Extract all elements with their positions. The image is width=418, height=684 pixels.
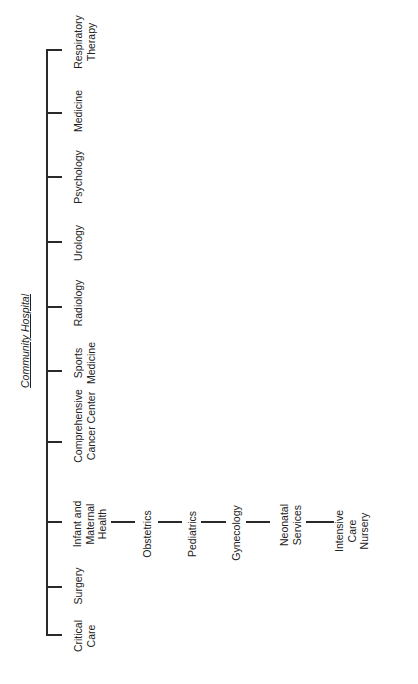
subunit-label-line: Neonatal — [278, 504, 291, 546]
dept-urology: Urology — [72, 225, 85, 261]
dept-label-line: Therapy — [84, 15, 97, 69]
subunit-label-line: Obstetrics — [141, 510, 154, 557]
subunit-gynecology: Gynecology — [230, 505, 243, 560]
dept-label-line: Critical — [72, 620, 85, 652]
dept-infant-maternal-health: Infant and Maternal Health — [71, 501, 109, 548]
dept-label-line: Medicine — [72, 90, 85, 132]
dept-label-line: Sports — [72, 342, 85, 384]
subunit-obstetrics: Obstetrics — [141, 510, 154, 557]
dept-sports-medicine: Sports Medicine — [72, 342, 97, 384]
subunit-label-line: Pediatrics — [186, 511, 199, 557]
dept-label-line: Medicine — [84, 342, 97, 384]
tick-radiology — [46, 306, 62, 308]
dept-label-line: Radiology — [72, 280, 85, 327]
dept-label-line: Infant and — [71, 501, 84, 548]
dept-label-line: Urology — [72, 225, 85, 261]
subunit-label-line: Services — [290, 504, 303, 546]
subunit-label-line: Nursery — [358, 510, 371, 552]
tick-surgery — [46, 586, 62, 588]
subunit-label-line: Care — [346, 510, 359, 552]
dept-surgery: Surgery — [72, 568, 85, 605]
dept-medicine: Medicine — [72, 90, 85, 132]
chart-title: Community Hospital — [19, 294, 31, 388]
dept-label-line: Surgery — [72, 568, 85, 605]
dept-label-line: Maternal — [84, 501, 97, 548]
subunit-intensive-care-nursery: Intensive Care Nursery — [333, 510, 371, 552]
tick-infant-maternal-health — [46, 521, 62, 523]
subchain-connector-3 — [201, 521, 226, 523]
tick-critical-care — [46, 634, 62, 636]
subchain-connector-2 — [158, 521, 182, 523]
tick-respiratory-therapy — [46, 49, 62, 51]
tick-sports-medicine — [46, 370, 62, 372]
dept-label-line: Psychology — [72, 150, 85, 204]
subunit-label-line: Intensive — [333, 510, 346, 552]
dept-radiology: Radiology — [72, 280, 85, 327]
dept-critical-care: Critical Care — [72, 620, 97, 652]
tick-comprehensive-cancer-center — [46, 441, 62, 443]
tick-medicine — [46, 112, 62, 114]
dept-comprehensive-cancer-center: Comprehensive Cancer Center — [72, 389, 97, 463]
dept-respiratory-therapy: Respiratory Therapy — [72, 15, 97, 69]
dept-label-line: Care — [84, 620, 97, 652]
subchain-connector-5 — [306, 521, 334, 523]
subchain-connector-1 — [111, 521, 135, 523]
subunit-pediatrics: Pediatrics — [186, 511, 199, 557]
subunit-neonatal-services: Neonatal Services — [278, 504, 303, 546]
main-trunk-line — [46, 49, 48, 636]
dept-label-line: Health — [96, 501, 109, 548]
dept-label-line: Comprehensive — [72, 389, 85, 463]
dept-label-line: Cancer Center — [84, 389, 97, 463]
dept-label-line: Respiratory — [72, 15, 85, 69]
tick-psychology — [46, 176, 62, 178]
subunit-label-line: Gynecology — [230, 505, 243, 560]
dept-psychology: Psychology — [72, 150, 85, 204]
subchain-connector-4 — [246, 521, 270, 523]
tick-urology — [46, 241, 62, 243]
